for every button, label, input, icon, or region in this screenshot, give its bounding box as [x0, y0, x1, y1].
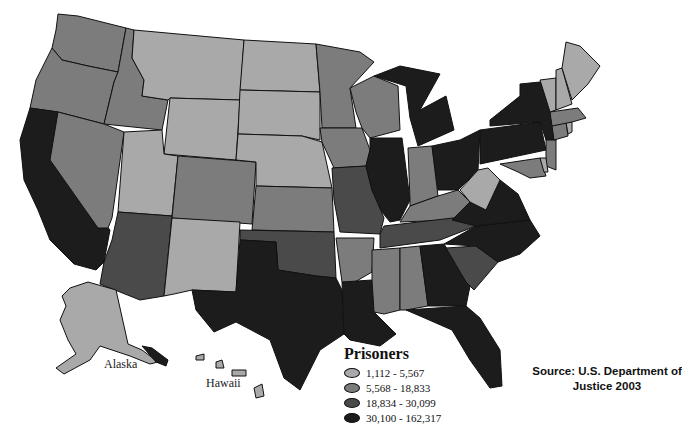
legend-label: 5,568 - 18,833 — [366, 382, 430, 394]
legend-swatch-icon — [344, 398, 360, 408]
legend-item: 5,568 - 18,833 — [344, 380, 441, 395]
legend-item: 30,100 - 162,317 — [344, 410, 441, 425]
state-new-mexico — [164, 218, 240, 296]
state-montana — [132, 30, 244, 100]
hawaii-label: Hawaii — [206, 376, 241, 391]
source-note: Source: U.S. Department of Justice 2003 — [532, 364, 682, 394]
state-hawaii — [254, 384, 264, 398]
state-arkansas — [336, 238, 374, 286]
state-pennsylvania — [480, 122, 546, 164]
legend-swatch-icon — [344, 368, 360, 378]
legend-swatch-icon — [344, 413, 360, 423]
legend-title: Prisoners — [344, 345, 441, 363]
state-north-dakota — [240, 40, 320, 92]
hawaii-islands-2 — [216, 360, 224, 368]
legend-label: 30,100 - 162,317 — [366, 412, 441, 424]
source-line-2: Justice 2003 — [532, 379, 682, 394]
legend-label: 18,834 - 30,099 — [366, 397, 436, 409]
legend-swatch-icon — [344, 383, 360, 393]
state-arizona — [100, 212, 172, 300]
state-wyoming — [164, 98, 240, 160]
state-colorado — [172, 156, 256, 224]
state-iowa — [320, 128, 370, 168]
hawaii-islands — [196, 354, 204, 360]
source-line-1: Source: U.S. Department of — [532, 364, 682, 379]
state-kansas — [252, 186, 334, 232]
legend-item: 18,834 - 30,099 — [344, 395, 441, 410]
state-maryland — [500, 158, 546, 178]
legend-label: 1,112 - 5,567 — [366, 367, 424, 379]
legend-item: 1,112 - 5,567 — [344, 365, 441, 380]
state-mississippi — [372, 248, 400, 314]
state-south-dakota — [238, 90, 320, 140]
alaska-label: Alaska — [104, 357, 137, 372]
legend: Prisoners 1,112 - 5,567 5,568 - 18,833 1… — [344, 345, 441, 425]
